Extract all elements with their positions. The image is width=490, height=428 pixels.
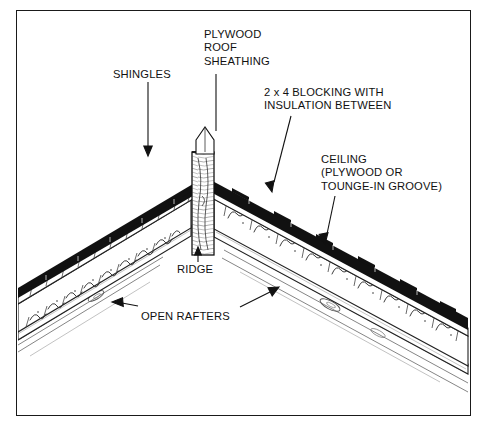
label-ceiling-line2: (PLYWOOD OR [321, 166, 403, 179]
label-ceiling-line3: TOUNGE-IN GROOVE) [321, 180, 442, 193]
leader-open-rafters-right [240, 287, 279, 307]
label-plywood-roof-sheathing-line2: ROOF [204, 41, 237, 54]
label-plywood-roof-sheathing-line1: PLYWOOD [204, 28, 261, 41]
diagram-page: SHINGLES PLYWOOD ROOF SHEATHING 2 x 4 BL… [0, 0, 490, 428]
leader-ceiling [319, 196, 335, 244]
right-insulation-cavity [214, 199, 468, 366]
label-blocking-insulation-line2: INSULATION BETWEEN [264, 99, 391, 112]
leader-open-rafters-left [112, 298, 138, 307]
leader-shingles [144, 82, 152, 156]
leader-blocking-insulation [265, 116, 291, 192]
left-roof-slope [18, 178, 203, 356]
right-roof-slope [205, 177, 468, 392]
label-ceiling-line1: CEILING [321, 153, 367, 166]
label-open-rafters: OPEN RAFTERS [141, 310, 230, 323]
label-blocking-insulation-line1: 2 x 4 BLOCKING WITH [264, 86, 384, 99]
label-plywood-roof-sheathing-line3: SHEATHING [204, 55, 270, 68]
label-shingles: SHINGLES [113, 68, 171, 81]
label-ridge: RIDGE [177, 263, 213, 276]
ridge-board [192, 152, 214, 255]
